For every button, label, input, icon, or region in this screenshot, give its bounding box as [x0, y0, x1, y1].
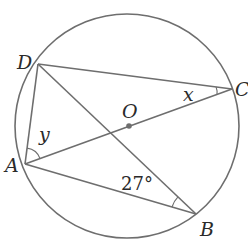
angle-arc-x: [216, 87, 217, 95]
center-point-o: [126, 123, 132, 129]
point-label-c: C: [235, 78, 248, 100]
point-label-a: A: [3, 154, 19, 176]
angle-label-x: x: [183, 83, 194, 105]
angle-label-y: y: [38, 123, 50, 145]
circle-geometry-diagram: D A C B O x y 27°: [0, 0, 248, 243]
angle-arc-27: [172, 197, 178, 207]
point-label-o: O: [122, 100, 138, 122]
point-label-d: D: [16, 51, 32, 73]
point-label-b: B: [199, 218, 214, 240]
angle-arc-y: [27, 148, 40, 158]
angle-label-27: 27°: [121, 173, 153, 194]
segment-dc: [38, 64, 232, 89]
